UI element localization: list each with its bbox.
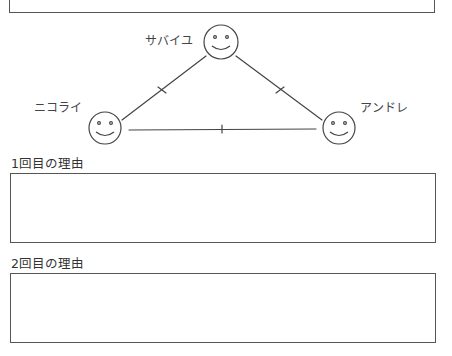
- edge-sabaiyu-nikolai: [122, 56, 206, 120]
- person-label-andre: アンドレ: [360, 98, 408, 115]
- smiley-face-icon: [323, 112, 355, 144]
- person-label-nikolai: ニコライ: [34, 98, 82, 115]
- reason-2-answer-box[interactable]: [10, 273, 436, 343]
- reason-2-label: 2回目の理由: [11, 253, 84, 272]
- edge-sabaiyu-andre: [236, 56, 322, 120]
- relationship-diagram: [0, 0, 452, 170]
- smiley-face-icon: [89, 112, 121, 144]
- reason-1-answer-box[interactable]: [10, 173, 436, 243]
- reason-1-label: 1回目の理由: [11, 153, 84, 172]
- tick-mark: [276, 87, 284, 93]
- person-label-sabaiyu: サバイユ: [145, 31, 193, 48]
- smiley-face-icon: [204, 25, 238, 59]
